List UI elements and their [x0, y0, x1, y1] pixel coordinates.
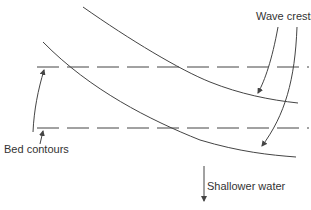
- bed-contours-arrow-upper: [33, 70, 44, 132]
- wave-crests-label: Wave crests: [256, 11, 311, 22]
- wave-crest-lower: [43, 42, 296, 157]
- bed-contours-label: Bed contours: [4, 144, 69, 155]
- shallower-water-label: Shallower water: [207, 181, 285, 192]
- wave-crests-arrow-upper: [258, 27, 278, 93]
- diagram-canvas: [0, 0, 311, 210]
- wave-refraction-diagram: Wave crests Bed contours Shallower water: [0, 0, 311, 210]
